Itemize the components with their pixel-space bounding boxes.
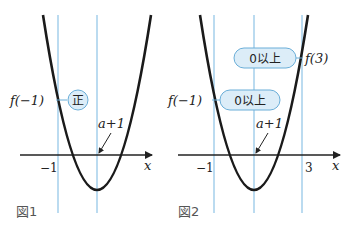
figure-2: x −1 3 0以上 f(3) f(−1) 0以上 a+1 図2 [167,15,340,219]
figure-2-label: 図2 [178,204,199,219]
f-minus1-label: f(−1) [9,93,44,108]
figure-1: x −1 f(−1) 正 a+1 図1 [9,15,152,219]
tick-label-minus1: −1 [196,161,214,175]
svg-text:0以上: 0以上 [249,52,281,66]
figure-1-label: 図1 [16,204,37,219]
vertex-label: a+1 [256,116,283,131]
x-axis-label: x [144,158,152,173]
diagram-canvas: x −1 f(−1) 正 a+1 図1 x −1 3 0以上 f(3) f(−1… [0,0,351,231]
tick-label-3: 3 [305,161,313,175]
x-axis-label: x [332,158,340,173]
callout-f-minus1-nonnegative: 0以上 [212,90,280,110]
svg-text:0以上: 0以上 [234,94,266,108]
f-minus1-label: f(−1) [167,93,202,108]
svg-text:正: 正 [72,94,84,108]
tick-label-minus1: −1 [40,161,58,175]
f3-label: f(3) [304,51,328,66]
vertex-pointer [256,133,268,153]
callout-f3-nonnegative: 0以上 [234,48,302,68]
vertex-pointer [99,133,111,153]
vertex-label: a+1 [98,116,125,131]
